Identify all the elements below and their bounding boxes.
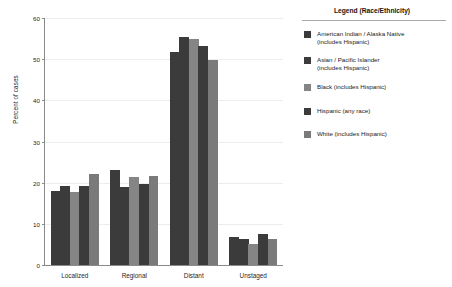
bar — [79, 186, 89, 265]
legend-swatch-icon — [304, 84, 311, 91]
y-tick-label: 60 — [33, 15, 40, 22]
plot-area: 0102030405060 LocalizedRegionalDistantUn… — [44, 18, 283, 266]
bar-group — [229, 18, 277, 265]
bar — [89, 174, 99, 265]
legend-swatch-icon — [304, 131, 311, 138]
bar — [51, 191, 61, 265]
bar-groups — [45, 18, 283, 265]
bar — [248, 244, 258, 265]
legend-item[interactable]: American Indian / Alaska Native (include… — [304, 30, 450, 45]
bar — [179, 37, 189, 265]
bar — [198, 46, 208, 265]
bar-group — [170, 18, 218, 265]
legend-item[interactable]: Hispanic (any race) — [304, 107, 450, 115]
bar — [239, 239, 249, 265]
legend-item[interactable]: Black (includes Hispanic) — [304, 83, 450, 91]
legend-item-label: American Indian / Alaska Native (include… — [317, 30, 404, 45]
legend-divider — [302, 20, 446, 21]
bar — [139, 184, 149, 265]
x-tick-label: Regional — [122, 272, 147, 279]
legend-title: Legend (Race/Ethnicity) — [296, 7, 448, 14]
legend-item-label: Asian / Pacific Islander (includes Hispa… — [317, 56, 380, 71]
y-tick-label: 30 — [33, 138, 40, 145]
bar — [258, 234, 268, 265]
y-axis-label: Percent of cases — [12, 55, 19, 145]
bar — [170, 52, 180, 265]
legend-panel: Legend (Race/Ethnicity) American Indian … — [296, 0, 452, 287]
bar — [208, 60, 218, 265]
legend-swatch-icon — [304, 57, 311, 64]
legend-item-label: Black (includes Hispanic) — [317, 83, 386, 91]
bar — [129, 177, 139, 266]
legend-swatch-icon — [304, 108, 311, 115]
x-axis-line — [44, 265, 283, 266]
y-tick-label: 50 — [33, 56, 40, 63]
bar — [110, 170, 120, 265]
y-tick-mark — [42, 265, 45, 266]
legend-item-label: White (includes Hispanic) — [317, 130, 387, 138]
bar — [268, 239, 278, 265]
x-tick-label: Distant — [184, 272, 204, 279]
legend-item[interactable]: White (includes Hispanic) — [304, 130, 450, 138]
y-tick-label: 40 — [33, 97, 40, 104]
x-tick-label: Localized — [61, 272, 88, 279]
y-tick-label: 10 — [33, 220, 40, 227]
legend-swatch-icon — [304, 31, 311, 38]
bar-group — [51, 18, 99, 265]
y-tick-label: 20 — [33, 179, 40, 186]
bar — [120, 187, 130, 265]
bar — [189, 39, 199, 265]
y-tick-label: 0 — [37, 262, 40, 269]
legend-item-label: Hispanic (any race) — [317, 107, 370, 115]
bar-group — [110, 18, 158, 265]
bar — [60, 186, 70, 265]
x-tick-label: Unstaged — [240, 272, 267, 279]
legend-item[interactable]: Asian / Pacific Islander (includes Hispa… — [304, 56, 450, 71]
chart-panel: Percent of cases 0102030405060 Localized… — [0, 0, 292, 287]
bar — [149, 176, 159, 265]
bar-chart-figure: Percent of cases 0102030405060 Localized… — [0, 0, 452, 287]
bar — [70, 192, 80, 265]
bar — [229, 237, 239, 265]
